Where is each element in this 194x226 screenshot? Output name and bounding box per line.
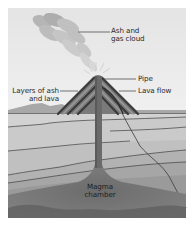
layers-label: Layers of ash and lava	[4, 87, 59, 103]
lava-flow-label: Lava flow	[138, 87, 171, 95]
volcano-diagram: Ash and gas cloud Pipe Layers of ash and…	[0, 0, 194, 226]
magma-chamber-label: Magma chamber	[78, 183, 122, 199]
ash-cloud-label: Ash and gas cloud	[111, 27, 145, 43]
pipe-label: Pipe	[138, 75, 153, 83]
